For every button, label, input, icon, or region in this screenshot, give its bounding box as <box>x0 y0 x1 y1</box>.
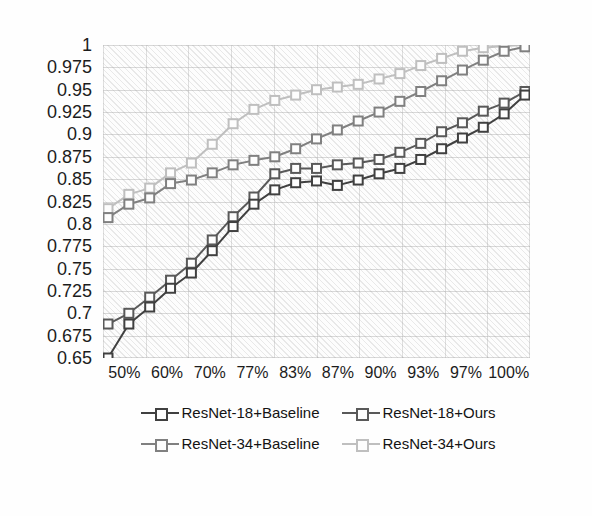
data-point-marker <box>166 284 175 293</box>
data-point-marker <box>521 45 530 51</box>
legend-item-label: ResNet-18+Ours <box>383 404 496 421</box>
data-point-marker <box>124 200 133 209</box>
data-point-marker <box>479 107 488 116</box>
data-point-marker <box>270 152 279 161</box>
data-point-marker <box>354 159 363 168</box>
plot-area <box>103 45 530 358</box>
series-resnet-18-baseline <box>104 91 530 358</box>
data-point-marker <box>333 160 342 169</box>
y-axis-tick-label: 0.775 <box>47 237 92 255</box>
x-axis-tick-label: 93% <box>407 364 439 382</box>
data-point-marker <box>145 293 154 302</box>
data-point-marker <box>416 61 425 70</box>
y-axis-tick-label: 0.65 <box>57 349 92 367</box>
data-point-marker <box>395 164 404 173</box>
data-point-marker <box>104 213 113 222</box>
y-axis-tick-label: 0.8 <box>67 215 92 233</box>
data-point-marker <box>208 168 217 177</box>
y-axis-tick-label: 0.675 <box>47 327 92 345</box>
y-axis-tick-label: 0.9 <box>67 125 92 143</box>
data-point-marker <box>124 190 133 199</box>
data-point-marker <box>500 47 509 56</box>
x-axis-tick-label: 77% <box>236 364 268 382</box>
legend-item-label: ResNet-34+Ours <box>383 435 496 452</box>
data-point-marker <box>124 309 133 318</box>
data-point-marker <box>270 96 279 105</box>
y-axis-tick-label: 0.975 <box>47 58 92 76</box>
data-point-marker <box>312 164 321 173</box>
data-point-marker <box>437 54 446 63</box>
data-point-marker <box>145 303 154 312</box>
data-point-marker <box>312 176 321 185</box>
data-point-marker <box>479 45 488 52</box>
data-point-marker <box>479 56 488 65</box>
data-point-marker <box>187 259 196 268</box>
data-point-marker <box>354 176 363 185</box>
data-point-marker <box>416 139 425 148</box>
data-point-marker <box>229 212 238 221</box>
series-svg <box>103 45 530 358</box>
data-point-marker <box>166 168 175 177</box>
data-point-marker <box>104 354 113 359</box>
data-point-marker <box>291 164 300 173</box>
data-point-marker <box>104 320 113 329</box>
data-point-marker <box>437 76 446 85</box>
y-axis-tick-label: 0.925 <box>47 103 92 121</box>
data-point-marker <box>354 117 363 126</box>
y-axis-tick-label: 0.875 <box>47 148 92 166</box>
data-point-marker <box>229 119 238 128</box>
x-axis-tick-label: 90% <box>365 364 397 382</box>
data-point-marker <box>395 97 404 106</box>
data-point-marker <box>458 134 467 143</box>
data-point-marker <box>375 155 384 164</box>
data-point-marker <box>521 91 530 100</box>
data-point-marker <box>416 155 425 164</box>
data-point-marker <box>458 66 467 75</box>
data-point-marker <box>333 125 342 134</box>
legend-item-resnet-18-baseline[interactable]: ResNet-18+Baseline <box>141 404 320 421</box>
x-axis: 50%60%70%77%83%87%90%93%97%100% <box>103 364 530 390</box>
legend-item-label: ResNet-34+Baseline <box>182 435 320 452</box>
y-axis-tick-label: 0.825 <box>47 193 92 211</box>
data-point-marker <box>437 144 446 153</box>
legend-item-resnet-18-ours[interactable]: ResNet-18+Ours <box>342 404 496 421</box>
data-point-marker <box>395 148 404 157</box>
data-point-marker <box>458 47 467 56</box>
data-point-marker <box>312 85 321 94</box>
x-axis-tick-label: 70% <box>194 364 226 382</box>
data-point-marker <box>270 169 279 178</box>
data-point-marker <box>104 204 113 213</box>
chart-page: 10.9750.950.9250.90.8750.850.8250.80.775… <box>0 0 592 516</box>
data-point-marker <box>333 181 342 190</box>
data-point-marker <box>500 99 509 108</box>
y-axis-tick-label: 0.75 <box>57 260 92 278</box>
data-point-marker <box>229 160 238 169</box>
legend-row: ResNet-34+BaselineResNet-34+Ours <box>141 435 496 452</box>
legend-item-resnet-34-ours[interactable]: ResNet-34+Ours <box>342 435 496 452</box>
x-axis-tick-label: 87% <box>322 364 354 382</box>
legend-item-label: ResNet-18+Baseline <box>182 404 320 421</box>
data-point-marker <box>145 193 154 202</box>
data-point-marker <box>187 159 196 168</box>
y-axis-tick-label: 0.85 <box>57 170 92 188</box>
x-axis-tick-label: 83% <box>279 364 311 382</box>
y-axis-tick-label: 1 <box>82 36 92 54</box>
data-point-marker <box>500 109 509 118</box>
data-point-marker <box>187 269 196 278</box>
data-point-marker <box>229 222 238 231</box>
data-point-marker <box>249 200 258 209</box>
x-axis-tick-label: 100% <box>488 364 529 382</box>
data-point-marker <box>458 118 467 127</box>
legend-marker-icon <box>342 437 380 451</box>
legend-item-resnet-34-baseline[interactable]: ResNet-34+Baseline <box>141 435 320 452</box>
x-axis-tick-label: 50% <box>108 364 140 382</box>
data-point-marker <box>375 108 384 117</box>
x-axis-tick-label: 97% <box>450 364 482 382</box>
data-point-marker <box>208 246 217 255</box>
data-point-marker <box>124 320 133 329</box>
y-axis-tick-label: 0.95 <box>57 81 92 99</box>
data-point-marker <box>291 178 300 187</box>
data-point-marker <box>208 235 217 244</box>
data-point-marker <box>166 179 175 188</box>
data-point-marker <box>333 83 342 92</box>
